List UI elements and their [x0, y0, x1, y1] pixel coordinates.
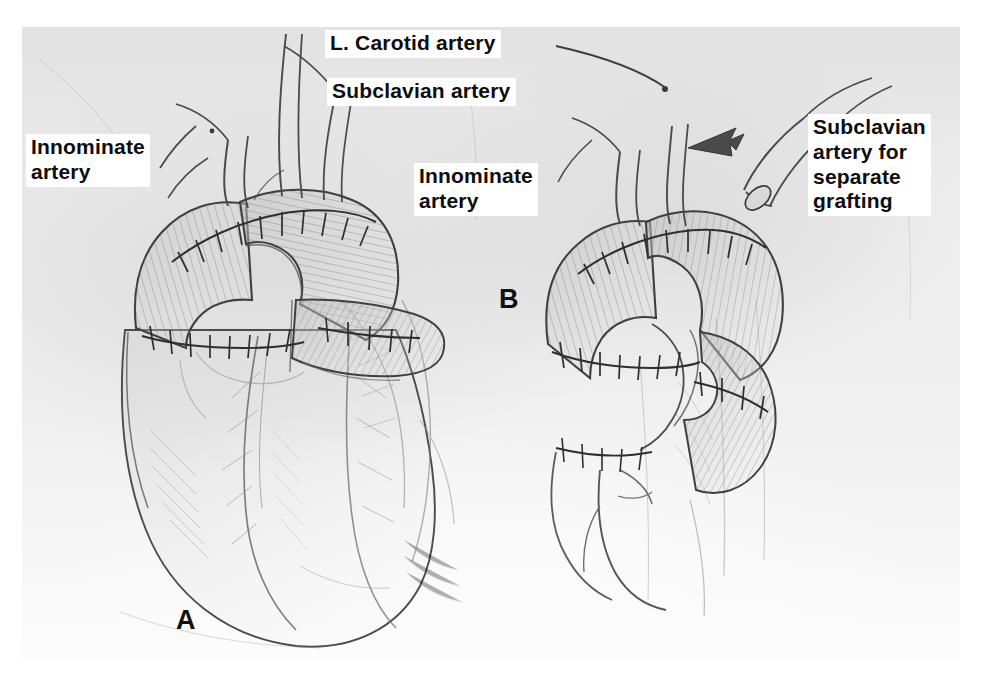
suture-line-lower-b — [556, 438, 652, 472]
figure-root: L. Carotid artery Subclavian artery Inno… — [0, 0, 983, 676]
label-subclavian-artery: Subclavian artery — [327, 78, 516, 106]
label-l-carotid-artery: L. Carotid artery — [325, 30, 501, 58]
leader-line-carotid — [556, 46, 666, 88]
panel-letter-a: A — [176, 605, 196, 636]
label-innominate-artery-a: Innominate artery — [26, 134, 150, 187]
label-subclavian-for-grafting: Subclavian artery for separate grafting — [808, 114, 931, 216]
branch-vessels-a — [160, 34, 352, 208]
panel-letter-b: B — [499, 284, 519, 315]
descending-aorta-b — [551, 452, 704, 616]
panel-a-illustration — [122, 34, 462, 647]
ascending-aorta-graft-a — [135, 202, 252, 348]
arrow-to-subclavian-stump — [688, 128, 744, 156]
label-innominate-artery-b: Innominate artery — [414, 163, 538, 216]
